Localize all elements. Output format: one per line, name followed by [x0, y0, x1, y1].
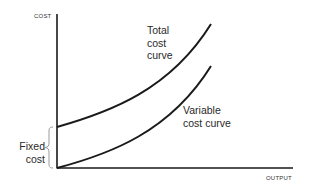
- variable-cost-label: Variable cost curve: [183, 104, 231, 129]
- x-axis-label: OUTPUT: [266, 175, 292, 181]
- total-cost-label: Total cost curve: [147, 24, 173, 62]
- fixed-cost-label: Fixed cost: [17, 140, 45, 165]
- y-axis-label: COST: [34, 13, 51, 19]
- fixed-cost-brace: [45, 127, 53, 168]
